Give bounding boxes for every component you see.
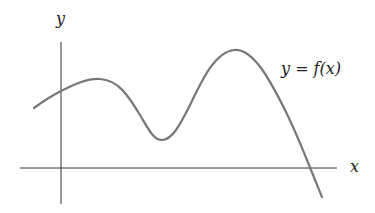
function-curve (34, 50, 322, 197)
graph-svg (0, 0, 375, 213)
x-axis-label: x (350, 159, 359, 175)
curve-label: y = f(x) (281, 61, 341, 77)
y-axis-label: y (56, 11, 65, 27)
function-graph-diagram: y x y = f(x) (0, 0, 375, 213)
